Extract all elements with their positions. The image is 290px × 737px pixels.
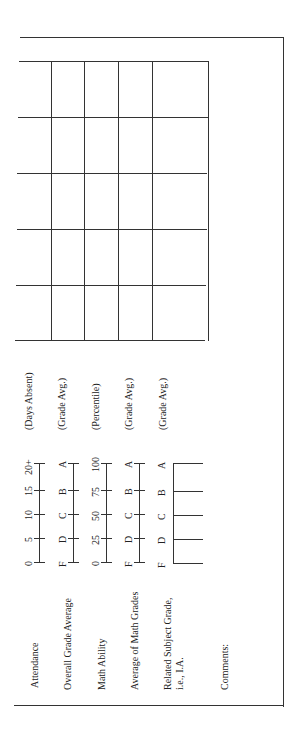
- label-overall-grade-average: Overall Grade Average: [62, 598, 73, 690]
- unit-overall-grade: (Grade Avg.): [56, 378, 67, 430]
- label-related-subject-line1: Related Subject Grade,: [162, 598, 173, 690]
- unit-attendance: (Days Absent): [23, 373, 34, 431]
- label-average-math-grades: Average of Math Grades: [129, 592, 140, 690]
- outer-border-right: [283, 37, 284, 707]
- unit-related-subject: (Grade Avg.): [157, 378, 168, 430]
- label-math-ability: Math Ability: [96, 639, 107, 690]
- outer-border-top: [20, 37, 284, 38]
- comments-label: Comments:: [219, 644, 230, 690]
- label-attendance: Attendance: [29, 642, 40, 688]
- unit-math-ability: (Percentile): [90, 383, 101, 430]
- outer-border-bottom: [14, 705, 284, 706]
- unit-math-grades: (Grade Avg.): [123, 378, 134, 430]
- label-related-subject-line2: i.e., I.A.: [174, 657, 185, 690]
